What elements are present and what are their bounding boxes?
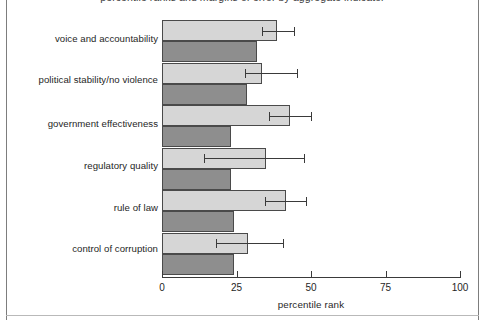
x-tick-label-75: 75 — [366, 282, 406, 293]
x-axis-title: percentile rank — [162, 299, 460, 310]
error-bar-cap-low — [245, 69, 246, 78]
error-bar-cap-high — [304, 154, 305, 163]
x-tick-label-50: 50 — [291, 282, 331, 293]
error-bar-cap-low — [204, 154, 205, 163]
bar-light-voice-and-accountability — [162, 20, 277, 41]
x-tick-100 — [460, 271, 461, 278]
category-label-government-effectiveness: government effectiveness — [6, 118, 158, 129]
error-bar-cap-high — [297, 69, 298, 78]
x-tick-label-25: 25 — [217, 282, 257, 293]
error-bar-cap-low — [269, 112, 270, 121]
error-bar-cap-low — [216, 239, 217, 248]
category-label-political-stability: political stability/no violence — [6, 74, 158, 85]
error-bar-line — [262, 31, 295, 32]
bar-dark-rule-of-law — [162, 211, 234, 232]
error-bar-line — [265, 201, 307, 202]
error-bar-cap-low — [265, 197, 266, 206]
error-bar-cap-high — [294, 27, 295, 36]
error-bar-control-of-corruption — [216, 239, 285, 248]
x-tick-0 — [162, 271, 163, 278]
error-bar-cap-high — [311, 112, 312, 121]
error-bar-line — [204, 158, 305, 159]
plot-area: voice and accountability political stabi… — [0, 0, 485, 320]
error-bar-government-effectiveness — [269, 112, 312, 121]
error-bar-political-stability-no-violence — [245, 69, 297, 78]
error-bar-line — [245, 73, 297, 74]
error-bar-voice-and-accountability — [262, 27, 295, 36]
x-tick-50 — [311, 271, 312, 278]
category-label-rule-of-law: rule of law — [6, 202, 158, 213]
chart-page: percentile ranks and margins of error by… — [0, 0, 485, 320]
error-bar-line — [216, 243, 285, 244]
category-label-regulatory-quality: regulatory quality — [6, 160, 158, 171]
bar-dark-political-stability-no-violence — [162, 84, 247, 105]
bar-dark-voice-and-accountability — [162, 41, 257, 62]
bar-dark-control-of-corruption — [162, 254, 234, 275]
error-bar-cap-high — [306, 197, 307, 206]
error-bar-line — [269, 116, 312, 117]
error-bar-cap-low — [262, 27, 263, 36]
error-bar-cap-high — [283, 239, 284, 248]
error-bar-regulatory-quality — [204, 154, 305, 163]
category-label-control-of-corruption: control of corruption — [6, 243, 158, 254]
error-bar-rule-of-law — [265, 197, 307, 206]
x-tick-25 — [237, 271, 238, 278]
bar-dark-regulatory-quality — [162, 169, 231, 190]
x-tick-label-0: 0 — [142, 282, 182, 293]
x-tick-75 — [386, 271, 387, 278]
category-label-voice-and-accountability: voice and accountability — [6, 33, 158, 44]
x-tick-label-100: 100 — [440, 282, 480, 293]
bar-dark-government-effectiveness — [162, 126, 231, 147]
